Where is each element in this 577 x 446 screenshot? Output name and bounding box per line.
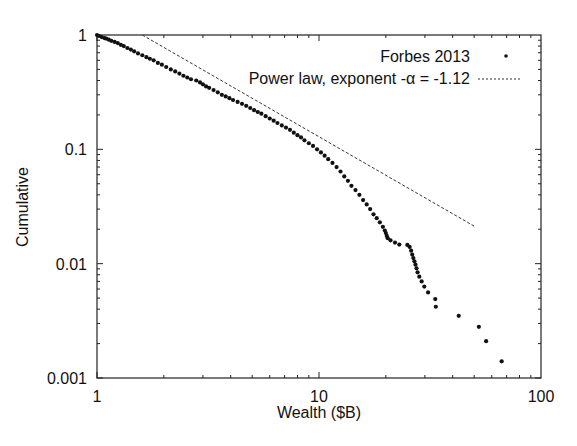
data-point bbox=[160, 63, 164, 67]
data-point bbox=[252, 108, 256, 112]
data-point bbox=[315, 147, 319, 151]
data-point bbox=[338, 169, 342, 173]
data-point bbox=[284, 125, 288, 129]
data-point bbox=[272, 119, 276, 123]
data-point bbox=[413, 263, 417, 267]
data-point bbox=[434, 305, 438, 309]
data-point bbox=[240, 102, 244, 106]
data-point bbox=[185, 75, 189, 79]
data-point bbox=[231, 98, 235, 102]
data-point bbox=[227, 96, 231, 100]
data-point bbox=[484, 339, 488, 343]
data-point bbox=[299, 135, 303, 139]
data-point bbox=[349, 184, 353, 188]
data-point bbox=[275, 121, 279, 125]
data-point bbox=[388, 238, 392, 242]
data-point bbox=[248, 106, 252, 110]
x-axis-title: Wealth ($B) bbox=[277, 404, 361, 421]
legend: Forbes 2013 Power law, exponent -α = -1.… bbox=[249, 48, 521, 87]
data-point bbox=[426, 290, 430, 294]
data-point bbox=[422, 285, 426, 289]
data-point bbox=[397, 242, 401, 246]
data-point bbox=[323, 154, 327, 158]
data-point bbox=[302, 138, 306, 142]
data-point bbox=[173, 69, 177, 73]
data-point bbox=[457, 314, 461, 318]
x-tick-label: 1 bbox=[93, 388, 102, 405]
data-point bbox=[295, 133, 299, 137]
data-point bbox=[216, 90, 220, 94]
data-point bbox=[236, 100, 240, 104]
data-point bbox=[353, 188, 357, 192]
data-point bbox=[319, 150, 323, 154]
legend-marker-forbes bbox=[504, 54, 508, 58]
data-point bbox=[381, 225, 385, 229]
y-tick-label: 0.01 bbox=[56, 256, 87, 273]
data-point bbox=[194, 78, 198, 82]
data-point bbox=[156, 61, 160, 65]
data-point bbox=[393, 240, 397, 244]
data-point bbox=[433, 297, 437, 301]
data-point bbox=[408, 245, 412, 249]
data-point bbox=[334, 165, 338, 169]
data-point bbox=[140, 53, 144, 57]
data-point bbox=[371, 212, 375, 216]
data-point bbox=[378, 220, 382, 224]
data-point bbox=[414, 266, 418, 270]
data-point bbox=[259, 112, 263, 116]
x-tick-label: 100 bbox=[528, 388, 555, 405]
y-tick-label: 0.001 bbox=[47, 370, 87, 387]
y-axis-title: Cumulative bbox=[14, 167, 31, 247]
data-point bbox=[326, 157, 330, 161]
data-point bbox=[288, 128, 292, 132]
data-point bbox=[211, 88, 215, 92]
legend-label-forbes: Forbes 2013 bbox=[380, 48, 470, 65]
legend-label-power-law: Power law, exponent -α = -1.12 bbox=[249, 70, 470, 87]
y-tick-label: 0.1 bbox=[65, 141, 87, 158]
data-point bbox=[181, 74, 185, 78]
data-point bbox=[500, 359, 504, 363]
data-point bbox=[136, 51, 140, 55]
data-point bbox=[244, 104, 248, 108]
data-point bbox=[224, 94, 228, 98]
data-point bbox=[361, 198, 365, 202]
data-point bbox=[268, 116, 272, 120]
data-point bbox=[189, 77, 193, 81]
data-point bbox=[375, 216, 379, 220]
data-point bbox=[330, 161, 334, 165]
data-point bbox=[409, 249, 413, 253]
y-tick-label: 1 bbox=[78, 27, 87, 44]
data-point bbox=[342, 174, 346, 178]
data-point bbox=[477, 325, 481, 329]
data-point bbox=[415, 270, 419, 274]
data-point bbox=[164, 65, 168, 69]
data-point bbox=[169, 67, 173, 71]
data-point bbox=[346, 179, 350, 183]
chart: 1101000.0010.010.11 Forbes 2013 Power la… bbox=[0, 0, 577, 446]
data-point bbox=[311, 144, 315, 148]
data-point bbox=[357, 193, 361, 197]
x-tick-label: 10 bbox=[310, 388, 328, 405]
data-point bbox=[420, 279, 424, 283]
data-point bbox=[177, 71, 181, 75]
data-point bbox=[368, 207, 372, 211]
data-point bbox=[152, 58, 156, 62]
data-point bbox=[256, 110, 260, 114]
data-point bbox=[292, 131, 296, 135]
data-point bbox=[365, 202, 369, 206]
data-point bbox=[207, 86, 211, 90]
data-point bbox=[417, 275, 421, 279]
data-point bbox=[148, 57, 152, 61]
data-point bbox=[280, 123, 284, 127]
data-point bbox=[220, 93, 224, 97]
data-point bbox=[264, 114, 268, 118]
data-point bbox=[307, 141, 311, 145]
data-point bbox=[122, 44, 126, 48]
data-point bbox=[132, 49, 136, 53]
